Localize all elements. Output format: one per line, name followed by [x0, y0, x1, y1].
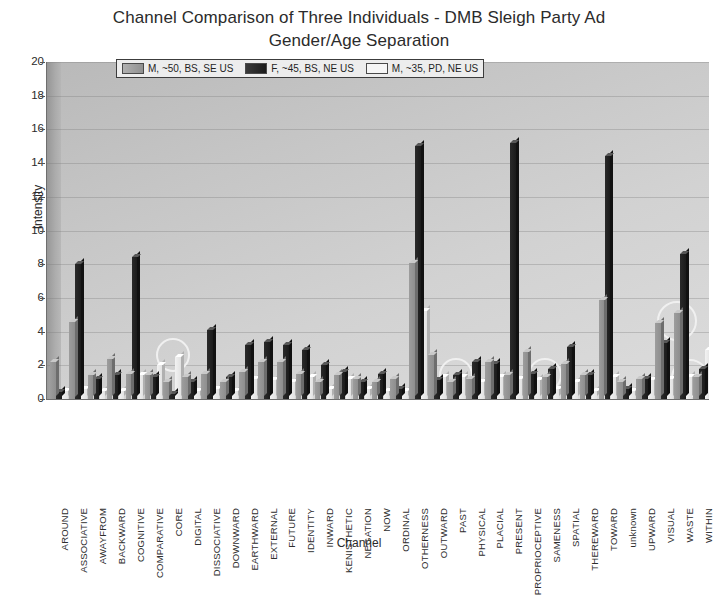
bar: [409, 263, 415, 399]
bar: [599, 300, 605, 399]
bar-group: [690, 62, 709, 399]
y-axis-tick-mark: [40, 62, 45, 63]
bar-group: [577, 62, 596, 399]
bar-face: [145, 375, 151, 399]
bar-side: [667, 337, 670, 396]
bar-face: [428, 355, 434, 399]
bar-face: [372, 382, 378, 399]
bar: [561, 364, 567, 399]
x-axis-tick-label: OUTWARD: [438, 508, 449, 558]
legend-item[interactable]: M, ~35, PD, NE US: [366, 63, 478, 74]
bar-group: [236, 62, 255, 399]
legend-item[interactable]: F, ~45, BS, NE US: [245, 63, 354, 74]
bar-side: [434, 349, 437, 396]
y-axis-tick-mark: [40, 129, 45, 130]
bar: [50, 362, 56, 399]
bar: [107, 359, 113, 399]
bar: [447, 382, 453, 399]
legend-swatch-icon: [245, 63, 267, 74]
bar-group: [558, 62, 577, 399]
bar: [674, 313, 680, 399]
y-axis-tick-label: 20: [4, 55, 44, 67]
y-axis-tick-label: 0: [4, 392, 44, 404]
bar-group: [520, 62, 539, 399]
y-axis-tick-label: 18: [4, 89, 44, 101]
bar-side: [491, 356, 494, 396]
bar-face: [182, 377, 188, 399]
bar-side: [75, 316, 78, 397]
chart-title: Channel Comparison of Three Individuals …: [0, 6, 718, 52]
bar-face: [107, 359, 113, 399]
bar-side: [326, 359, 329, 396]
bar-group: [274, 62, 293, 399]
x-axis-tick-label: EXTERNAL: [268, 508, 279, 560]
bar-side: [572, 341, 575, 396]
chart-legend: M, ~50, BS, SE USF, ~45, BS, NE USM, ~35…: [116, 59, 484, 78]
bar-group: [652, 62, 671, 399]
bar-side: [137, 251, 140, 396]
bar-face: [201, 374, 207, 399]
y-axis-tick-label: 6: [4, 291, 44, 303]
bar-group: [501, 62, 520, 399]
bar-face: [353, 379, 359, 399]
bar-face: [50, 362, 56, 399]
legend-swatch-icon: [122, 63, 144, 74]
bar-side: [415, 257, 418, 396]
bar-side: [289, 339, 292, 396]
bar: [504, 375, 510, 399]
bar: [510, 143, 516, 399]
y-axis-label: Intensity: [31, 147, 45, 267]
bar-face: [69, 322, 75, 400]
bar: [636, 379, 642, 399]
y-axis-tick-mark: [40, 298, 45, 299]
bar-side: [283, 356, 286, 396]
bar-group: [633, 62, 652, 399]
bar: [296, 374, 302, 399]
bar-face: [466, 379, 472, 399]
plot-area: [46, 62, 709, 400]
legend-label: F, ~45, BS, NE US: [271, 63, 354, 74]
bar-face: [617, 382, 623, 399]
bar-group: [614, 62, 633, 399]
bar-face: [390, 379, 396, 399]
bar: [523, 352, 529, 399]
bar: [220, 382, 226, 399]
bar-side: [604, 294, 607, 396]
bar-side: [478, 356, 481, 396]
bar: [390, 379, 396, 399]
bar-side: [213, 324, 216, 396]
bar-face: [542, 377, 548, 399]
x-axis-tick-label: PROPRIOCEPTIVE: [532, 508, 543, 595]
bar-face: [126, 374, 132, 399]
bar: [145, 375, 151, 399]
bar-group: [444, 62, 463, 399]
bar: [485, 362, 491, 399]
y-axis-tick-mark: [40, 96, 45, 97]
bar-group: [596, 62, 615, 399]
bar-group: [85, 62, 104, 399]
bar-top: [705, 347, 709, 350]
bar: [277, 362, 283, 399]
bar-face: [169, 394, 175, 399]
bar-side: [661, 317, 664, 396]
bar-side: [81, 258, 84, 396]
bar-group: [406, 62, 425, 399]
y-axis-tick-label: 4: [4, 325, 44, 337]
y-axis-tick-mark: [40, 332, 45, 333]
bar-face: [485, 362, 491, 399]
legend-label: M, ~50, BS, SE US: [148, 63, 233, 74]
legend-item[interactable]: M, ~50, BS, SE US: [122, 63, 233, 74]
bar: [169, 394, 175, 399]
bar-group: [369, 62, 388, 399]
bar-face: [296, 374, 302, 399]
bar-group: [293, 62, 312, 399]
bar-group: [539, 62, 558, 399]
x-axis-tick-labels: AROUNDASSOCIATIVEAWAYFROMBACKWARDCOGNITI…: [46, 402, 708, 514]
bar: [88, 375, 94, 399]
bar-face: [447, 382, 453, 399]
bar: [655, 323, 661, 399]
bar: [353, 379, 359, 399]
bar-side: [421, 140, 424, 396]
bar: [201, 374, 207, 399]
bar: [372, 382, 378, 399]
